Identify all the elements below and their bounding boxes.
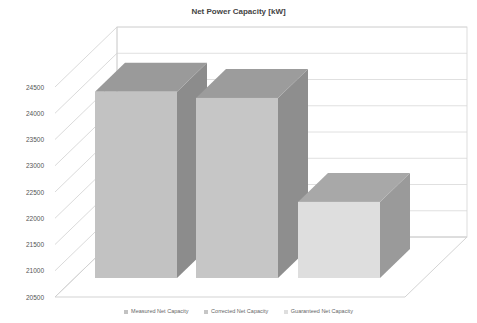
bar-1 (95, 92, 177, 278)
bar-2 (196, 98, 278, 278)
y-tick-label: 20500 (26, 294, 44, 301)
legend-swatch-icon (204, 310, 208, 314)
y-tick-label: 22500 (26, 189, 44, 196)
bar-3 (298, 202, 380, 278)
legend-swatch-icon (124, 310, 128, 314)
y-tick-label: 22000 (26, 215, 44, 222)
legend-item-guaranteed: Guaranteed Net Capacity (284, 308, 353, 314)
legend-item-corrected: Corrected Net Capacity (204, 308, 268, 314)
plot-area: 2050021000215002200022500230002350024000… (0, 0, 477, 323)
y-tick-label: 23000 (26, 162, 44, 169)
legend-item-measured: Measured Net Capacity (124, 308, 188, 314)
legend-label: Guaranteed Net Capacity (291, 308, 353, 314)
side-gridline (55, 27, 117, 87)
legend-swatch-icon (284, 310, 288, 314)
legend-label: Corrected Net Capacity (211, 308, 268, 314)
legend: Measured Net Capacity Corrected Net Capa… (0, 308, 477, 314)
y-tick-label: 24000 (26, 110, 44, 117)
legend-label: Measured Net Capacity (131, 308, 188, 314)
y-tick-label: 21000 (26, 267, 44, 274)
y-tick-label: 24500 (26, 84, 44, 91)
y-tick-label: 23500 (26, 136, 44, 143)
y-tick-label: 21500 (26, 241, 44, 248)
